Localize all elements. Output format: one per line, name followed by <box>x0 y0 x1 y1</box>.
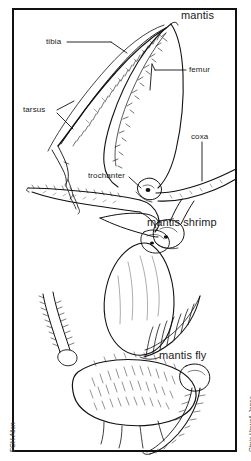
label-femur: femur <box>189 66 210 74</box>
label-coxa: coxa <box>191 133 208 141</box>
credit-right: Chris Howell-Jones <box>248 396 251 452</box>
label-taxon-mantis: mantis <box>181 10 214 21</box>
label-taxon-mantis-shrimp: mantis shrimp <box>147 217 217 228</box>
label-taxon-mantis-fly: mantis fly <box>159 350 206 361</box>
figure-plate: tibia femur tarsus coxa trochanter manti… <box>0 0 251 461</box>
label-trochanter: trochanter <box>88 172 125 180</box>
label-tibia: tibia <box>46 38 61 46</box>
credit-left: FGH Allen <box>9 422 16 452</box>
label-tarsus: tarsus <box>23 106 45 114</box>
plate-frame <box>12 8 237 452</box>
